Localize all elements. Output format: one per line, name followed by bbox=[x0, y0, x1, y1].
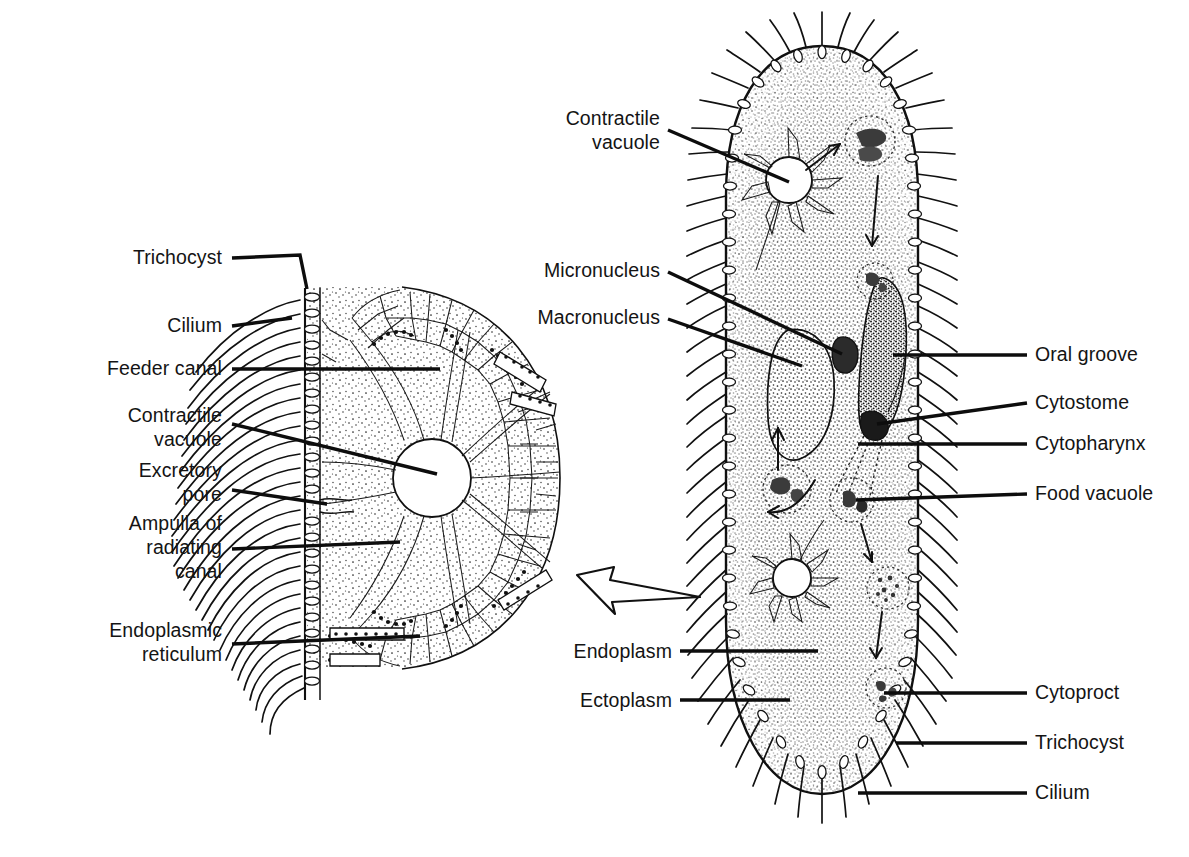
label-cytoproct-text: Cytoproct bbox=[1035, 681, 1120, 703]
label-feeder-canal-text: Feeder canal bbox=[107, 357, 222, 379]
label-micronucleus-text: Micronucleus bbox=[544, 259, 660, 281]
label-cv-main-l2: vacuole bbox=[592, 131, 660, 153]
label-endoplasm-text: Endoplasm bbox=[574, 640, 672, 662]
label-ampulla-l3: canal bbox=[175, 560, 222, 582]
label-oral-groove-text: Oral groove bbox=[1035, 343, 1138, 365]
label-contractile-l1: Contractile bbox=[128, 404, 222, 426]
label-cytostome-text: Cytostome bbox=[1035, 391, 1129, 413]
label-macronucleus-text: Macronucleus bbox=[537, 306, 660, 328]
paramecium-figure: Trichocyst Cilium Feeder canal Contracti… bbox=[0, 0, 1189, 857]
label-excretory-l1: Excretory bbox=[139, 459, 222, 481]
label-ampulla-l1: Ampulla of bbox=[129, 512, 223, 534]
label-food-vacuole-text: Food vacuole bbox=[1035, 482, 1153, 504]
diagram-canvas: Trichocyst Cilium Feeder canal Contracti… bbox=[0, 0, 1189, 857]
micronucleus bbox=[832, 337, 858, 373]
label-contractile-l2: vacuole bbox=[154, 428, 222, 450]
label-trichocyst-right-text: Trichocyst bbox=[1035, 731, 1125, 753]
label-excretory-l2: pore bbox=[183, 483, 222, 505]
label-cv-main-l1: Contractile bbox=[566, 107, 660, 129]
label-er-l2: reticulum bbox=[142, 643, 222, 665]
label-cilium-right-text: Cilium bbox=[1035, 781, 1090, 803]
detail-contractile-vacuole bbox=[393, 439, 471, 517]
label-cilium-text: Cilium bbox=[167, 314, 222, 336]
label-ectoplasm-text: Ectoplasm bbox=[580, 689, 672, 711]
label-ampulla-l2: radiating bbox=[146, 536, 222, 558]
label-er-l1: Endoplasmic bbox=[109, 619, 222, 641]
label-trichocyst-text: Trichocyst bbox=[133, 246, 223, 268]
label-cytopharynx-text: Cytopharynx bbox=[1035, 432, 1146, 454]
